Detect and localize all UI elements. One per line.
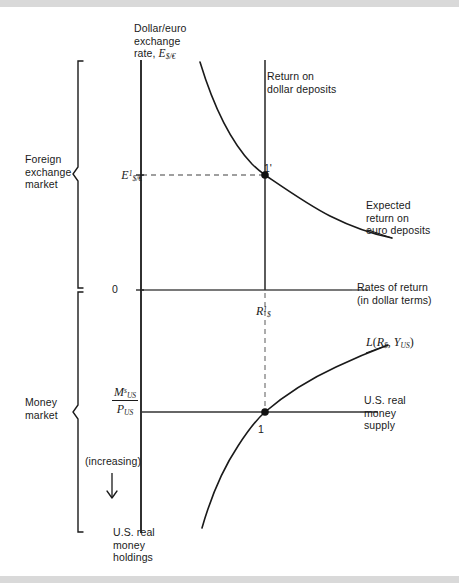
exchange-rate-math: E1$/€ bbox=[121, 168, 142, 182]
y-axis-title-variable-sub: $/€ bbox=[166, 52, 176, 61]
exchange-rate-equilibrium-label: E1$/€ bbox=[100, 165, 142, 183]
interest-rate-math: R1$ bbox=[256, 304, 271, 318]
increasing-label: (increasing) bbox=[78, 455, 148, 468]
fraction-numerator-sub: US bbox=[127, 391, 136, 400]
money-demand-function-math: L(R$, YUS) bbox=[366, 335, 414, 349]
rates-of-return-axis-label: Rates of return (in dollar terms) bbox=[357, 281, 457, 306]
y-axis-title-line1: Dollar/euro bbox=[134, 22, 187, 34]
equilibrium-point-label-fx: 1' bbox=[264, 162, 272, 174]
exchange-rate-sub: $/€ bbox=[132, 174, 142, 183]
y-axis-title-line2: exchange bbox=[134, 35, 180, 47]
y-axis-title-line3: rate, bbox=[134, 47, 159, 59]
foreign-exchange-market-label: Foreign exchange market bbox=[25, 153, 95, 191]
interest-rate-equilibrium-label: R1$ bbox=[256, 301, 271, 319]
y-axis-title-variable: E$/€ bbox=[159, 47, 176, 59]
fraction-denominator: PUS bbox=[112, 401, 138, 417]
money-holdings-axis-label: U.S. real money holdings bbox=[113, 526, 193, 564]
money-market-label: Money market bbox=[25, 396, 95, 421]
money-supply-curve-label: U.S. real money supply bbox=[364, 394, 449, 432]
increasing-arrow-icon bbox=[107, 473, 117, 498]
expected-return-euro-deposits-label: Expected return on euro deposits bbox=[366, 199, 456, 237]
money-demand-function-label: L(R$, YUS) bbox=[366, 332, 414, 350]
interest-rate-sub: $ bbox=[267, 310, 271, 319]
fraction-denominator-sub: US bbox=[124, 409, 133, 418]
real-money-supply-fraction: MsUSPUS bbox=[112, 385, 138, 418]
real-money-supply-fraction-label: MsUSPUS bbox=[104, 385, 146, 418]
y-axis-title: Dollar/euroexchangerate, E$/€ bbox=[134, 22, 254, 64]
figure-container: Dollar/euroexchangerate, E$/€ E1$/€ 0 R1… bbox=[0, 0, 459, 583]
return-on-dollar-deposits-label: Return on dollar deposits bbox=[267, 70, 377, 95]
origin-label: 0 bbox=[112, 283, 118, 295]
equilibrium-point-label-money: 1 bbox=[258, 423, 264, 435]
fraction-numerator: MsUS bbox=[112, 385, 138, 401]
equilibrium-point-money-marker bbox=[261, 408, 269, 416]
money-demand-Y-sub: US bbox=[400, 341, 409, 350]
money-demand-curve bbox=[202, 345, 388, 528]
